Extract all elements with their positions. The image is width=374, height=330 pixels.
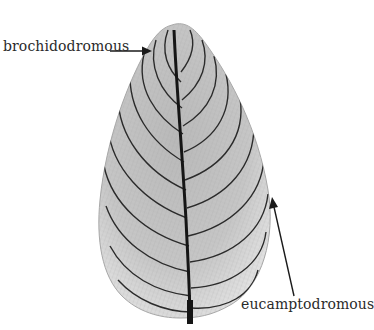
- label-eucamptodromous: eucamptodromous: [241, 296, 374, 312]
- label-brochidodromous: brochidodromous: [3, 38, 129, 54]
- petiole: [187, 300, 193, 324]
- arrow-eucamptodromous: [269, 197, 294, 296]
- leaf-blade: [90, 15, 280, 325]
